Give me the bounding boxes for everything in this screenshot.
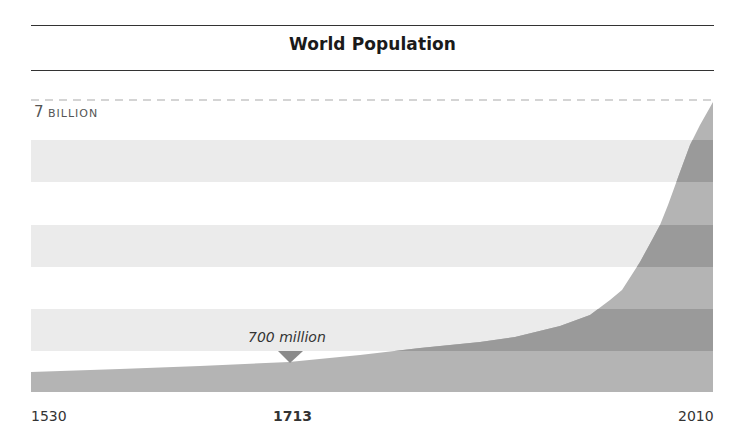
x-tick-start: 1530 [31, 408, 67, 424]
chart-plot-area [0, 0, 745, 444]
annotation-label: 700 million [248, 329, 326, 345]
x-tick-end: 2010 [678, 408, 714, 424]
x-tick-highlight: 1713 [273, 408, 312, 424]
y-max-label: 7 BILLION [34, 103, 98, 121]
